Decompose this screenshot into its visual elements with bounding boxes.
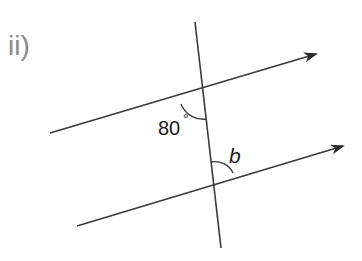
angle-label-b: b bbox=[229, 144, 241, 167]
degree-symbol: ° bbox=[183, 111, 189, 127]
transversal-line bbox=[195, 22, 221, 248]
part-label: ii) bbox=[8, 30, 30, 62]
diagram-canvas: 80 ° b bbox=[0, 0, 362, 261]
angle-label-80: 80 bbox=[158, 117, 180, 139]
parallel-lines-diagram: ii) 80 ° b bbox=[0, 0, 362, 261]
